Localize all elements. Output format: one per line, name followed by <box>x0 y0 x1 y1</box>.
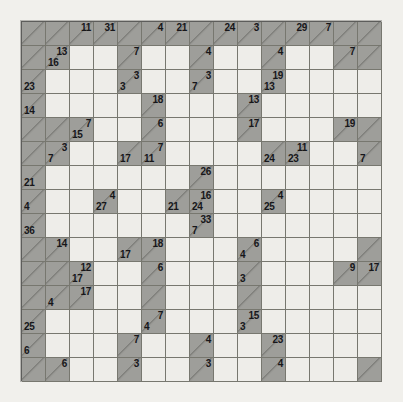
kakuro-entry-cell[interactable] <box>142 46 166 70</box>
kakuro-entry-cell[interactable] <box>142 358 166 382</box>
kakuro-entry-cell[interactable] <box>358 190 382 214</box>
kakuro-entry-cell[interactable] <box>214 70 238 94</box>
kakuro-entry-cell[interactable] <box>214 118 238 142</box>
kakuro-entry-cell[interactable] <box>118 310 142 334</box>
kakuro-entry-cell[interactable] <box>238 166 262 190</box>
kakuro-entry-cell[interactable] <box>190 94 214 118</box>
kakuro-entry-cell[interactable] <box>334 358 358 382</box>
kakuro-entry-cell[interactable] <box>310 238 334 262</box>
kakuro-entry-cell[interactable] <box>262 286 286 310</box>
kakuro-entry-cell[interactable] <box>334 238 358 262</box>
kakuro-entry-cell[interactable] <box>142 70 166 94</box>
kakuro-entry-cell[interactable] <box>214 94 238 118</box>
kakuro-grid[interactable]: 1131421243297131674472333371913141813715… <box>21 21 381 381</box>
kakuro-entry-cell[interactable] <box>70 70 94 94</box>
kakuro-entry-cell[interactable] <box>118 262 142 286</box>
kakuro-entry-cell[interactable] <box>238 70 262 94</box>
kakuro-entry-cell[interactable] <box>142 190 166 214</box>
kakuro-entry-cell[interactable] <box>94 94 118 118</box>
kakuro-entry-cell[interactable] <box>166 238 190 262</box>
kakuro-entry-cell[interactable] <box>214 334 238 358</box>
kakuro-entry-cell[interactable] <box>310 310 334 334</box>
kakuro-entry-cell[interactable] <box>334 190 358 214</box>
kakuro-entry-cell[interactable] <box>238 46 262 70</box>
kakuro-entry-cell[interactable] <box>190 142 214 166</box>
kakuro-entry-cell[interactable] <box>94 262 118 286</box>
kakuro-entry-cell[interactable] <box>70 94 94 118</box>
kakuro-entry-cell[interactable] <box>334 286 358 310</box>
kakuro-entry-cell[interactable] <box>142 334 166 358</box>
kakuro-entry-cell[interactable] <box>238 358 262 382</box>
kakuro-entry-cell[interactable] <box>46 94 70 118</box>
kakuro-entry-cell[interactable] <box>190 118 214 142</box>
kakuro-entry-cell[interactable] <box>310 214 334 238</box>
kakuro-entry-cell[interactable] <box>214 358 238 382</box>
kakuro-entry-cell[interactable] <box>310 118 334 142</box>
kakuro-entry-cell[interactable] <box>310 94 334 118</box>
kakuro-entry-cell[interactable] <box>166 142 190 166</box>
kakuro-entry-cell[interactable] <box>334 166 358 190</box>
kakuro-entry-cell[interactable] <box>70 142 94 166</box>
kakuro-entry-cell[interactable] <box>166 118 190 142</box>
kakuro-entry-cell[interactable] <box>166 46 190 70</box>
kakuro-entry-cell[interactable] <box>358 310 382 334</box>
kakuro-entry-cell[interactable] <box>214 190 238 214</box>
kakuro-entry-cell[interactable] <box>166 262 190 286</box>
kakuro-entry-cell[interactable] <box>238 334 262 358</box>
kakuro-entry-cell[interactable] <box>358 94 382 118</box>
kakuro-entry-cell[interactable] <box>46 334 70 358</box>
kakuro-entry-cell[interactable] <box>94 142 118 166</box>
kakuro-entry-cell[interactable] <box>214 310 238 334</box>
kakuro-entry-cell[interactable] <box>238 214 262 238</box>
kakuro-entry-cell[interactable] <box>286 358 310 382</box>
kakuro-entry-cell[interactable] <box>166 286 190 310</box>
kakuro-entry-cell[interactable] <box>118 166 142 190</box>
kakuro-entry-cell[interactable] <box>70 358 94 382</box>
kakuro-entry-cell[interactable] <box>94 166 118 190</box>
kakuro-entry-cell[interactable] <box>166 94 190 118</box>
kakuro-entry-cell[interactable] <box>334 334 358 358</box>
kakuro-entry-cell[interactable] <box>118 286 142 310</box>
kakuro-entry-cell[interactable] <box>310 262 334 286</box>
kakuro-entry-cell[interactable] <box>190 238 214 262</box>
kakuro-entry-cell[interactable] <box>358 214 382 238</box>
kakuro-entry-cell[interactable] <box>262 214 286 238</box>
kakuro-entry-cell[interactable] <box>166 70 190 94</box>
kakuro-entry-cell[interactable] <box>262 262 286 286</box>
kakuro-entry-cell[interactable] <box>118 94 142 118</box>
kakuro-entry-cell[interactable] <box>286 70 310 94</box>
kakuro-entry-cell[interactable] <box>190 310 214 334</box>
kakuro-entry-cell[interactable] <box>118 214 142 238</box>
kakuro-entry-cell[interactable] <box>70 334 94 358</box>
kakuro-entry-cell[interactable] <box>334 94 358 118</box>
kakuro-entry-cell[interactable] <box>142 166 166 190</box>
kakuro-entry-cell[interactable] <box>286 238 310 262</box>
kakuro-entry-cell[interactable] <box>238 190 262 214</box>
kakuro-entry-cell[interactable] <box>214 214 238 238</box>
kakuro-entry-cell[interactable] <box>70 238 94 262</box>
kakuro-entry-cell[interactable] <box>94 358 118 382</box>
kakuro-entry-cell[interactable] <box>118 118 142 142</box>
kakuro-entry-cell[interactable] <box>166 214 190 238</box>
kakuro-entry-cell[interactable] <box>358 286 382 310</box>
kakuro-entry-cell[interactable] <box>94 46 118 70</box>
kakuro-entry-cell[interactable] <box>286 94 310 118</box>
kakuro-entry-cell[interactable] <box>46 214 70 238</box>
kakuro-entry-cell[interactable] <box>46 310 70 334</box>
kakuro-entry-cell[interactable] <box>70 310 94 334</box>
kakuro-entry-cell[interactable] <box>262 94 286 118</box>
kakuro-entry-cell[interactable] <box>286 166 310 190</box>
kakuro-entry-cell[interactable] <box>334 310 358 334</box>
kakuro-entry-cell[interactable] <box>190 262 214 286</box>
kakuro-entry-cell[interactable] <box>310 142 334 166</box>
kakuro-entry-cell[interactable] <box>310 166 334 190</box>
kakuro-entry-cell[interactable] <box>46 70 70 94</box>
kakuro-entry-cell[interactable] <box>286 118 310 142</box>
kakuro-entry-cell[interactable] <box>310 286 334 310</box>
kakuro-entry-cell[interactable] <box>286 286 310 310</box>
kakuro-entry-cell[interactable] <box>286 334 310 358</box>
kakuro-entry-cell[interactable] <box>94 118 118 142</box>
kakuro-entry-cell[interactable] <box>310 190 334 214</box>
kakuro-entry-cell[interactable] <box>46 166 70 190</box>
kakuro-entry-cell[interactable] <box>334 214 358 238</box>
